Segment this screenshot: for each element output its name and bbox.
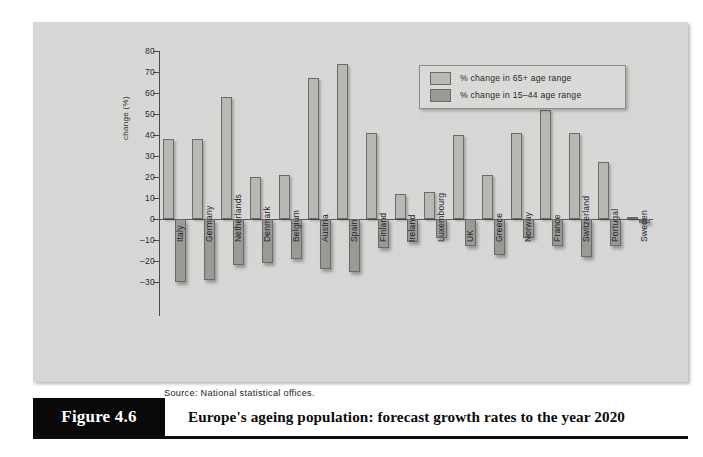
- bar-65plus: [424, 192, 435, 219]
- figure-caption-bar: Figure 4.6 Europe's ageing population: f…: [33, 398, 688, 436]
- bar-group: [334, 44, 363, 316]
- scanned-page: 80706050403020100–10–20–30 change (%) It…: [0, 0, 703, 457]
- figure-number-label: Figure 4.6: [33, 398, 165, 436]
- y-tick-label: 60: [145, 88, 155, 98]
- y-tick-label: 20: [145, 172, 155, 182]
- bar-65plus: [511, 133, 522, 219]
- x-axis-label: Spain: [349, 219, 359, 242]
- bar-65plus: [569, 133, 580, 219]
- x-axis-label: Denmark: [262, 206, 272, 242]
- bar-65plus: [453, 135, 464, 219]
- x-axis-label: Norway: [523, 212, 533, 242]
- bar-65plus: [337, 64, 348, 219]
- bar-65plus: [540, 110, 551, 219]
- bar-group: [160, 44, 189, 316]
- bar-group: [392, 44, 421, 316]
- legend-label-15-44: % change in 15–44 age range: [460, 90, 581, 100]
- y-axis-title: change (%): [121, 96, 130, 140]
- bar-65plus: [279, 175, 290, 219]
- caption-rule: [33, 436, 688, 439]
- legend-item-65plus: % change in 65+ age range: [430, 71, 572, 85]
- x-axis-label: Portugal: [610, 209, 620, 242]
- figure-caption-text: Europe's ageing population: forecast gro…: [188, 398, 625, 436]
- bar-group: [363, 44, 392, 316]
- bar-group: [305, 44, 334, 316]
- bar-65plus: [366, 133, 377, 219]
- legend-item-15-44: % change in 15–44 age range: [430, 88, 581, 102]
- x-axis-label: Luxembourg: [436, 193, 446, 242]
- bar-65plus: [482, 175, 493, 219]
- x-axis-label: Austria: [320, 214, 330, 242]
- bar-group: [276, 44, 305, 316]
- bar-65plus: [598, 162, 609, 219]
- y-tick-label: 40: [145, 130, 155, 140]
- source-note: Source: National statistical offices.: [164, 388, 315, 398]
- x-axis-label: Italy: [175, 225, 185, 242]
- x-axis-label: Switzerland: [581, 196, 591, 242]
- bar-65plus: [627, 217, 638, 219]
- y-tick-label: –30: [140, 277, 155, 287]
- y-tick-label: 30: [145, 151, 155, 161]
- y-tick-label: 10: [145, 193, 155, 203]
- bar-65plus: [163, 139, 174, 219]
- legend-swatch-15-44: [430, 89, 451, 102]
- y-tick-label: 0: [150, 214, 155, 224]
- bar-65plus: [192, 139, 203, 219]
- x-axis-label: Germany: [204, 206, 214, 242]
- x-axis-label: Belgium: [291, 210, 301, 242]
- bar-group: [247, 44, 276, 316]
- x-axis-label: Ireland: [407, 215, 417, 242]
- y-tick-label: 80: [145, 46, 155, 56]
- chart-legend: % change in 65+ age range % change in 15…: [419, 65, 626, 109]
- x-axis-label: Finland: [378, 213, 388, 242]
- y-tick-label: –10: [140, 235, 155, 245]
- x-axis-label: France: [552, 214, 562, 242]
- bar-65plus: [250, 177, 261, 219]
- chart-panel: 80706050403020100–10–20–30 change (%) It…: [33, 22, 688, 382]
- bar-65plus: [308, 78, 319, 219]
- x-axis-label: Sweden: [639, 210, 649, 242]
- legend-swatch-65plus: [430, 72, 451, 85]
- bar-65plus: [395, 194, 406, 219]
- x-axis-label: UK: [465, 230, 475, 242]
- bar-group: [218, 44, 247, 316]
- y-tick-label: –20: [140, 256, 155, 266]
- x-axis-label: Netherlands: [233, 194, 243, 242]
- legend-label-65plus: % change in 65+ age range: [460, 73, 572, 83]
- bar-group: [189, 44, 218, 316]
- y-tick-label: 70: [145, 67, 155, 77]
- bar-65plus: [221, 97, 232, 219]
- x-axis-label: Greece: [494, 213, 504, 242]
- bar-group: [624, 44, 653, 316]
- y-tick-label: 50: [145, 109, 155, 119]
